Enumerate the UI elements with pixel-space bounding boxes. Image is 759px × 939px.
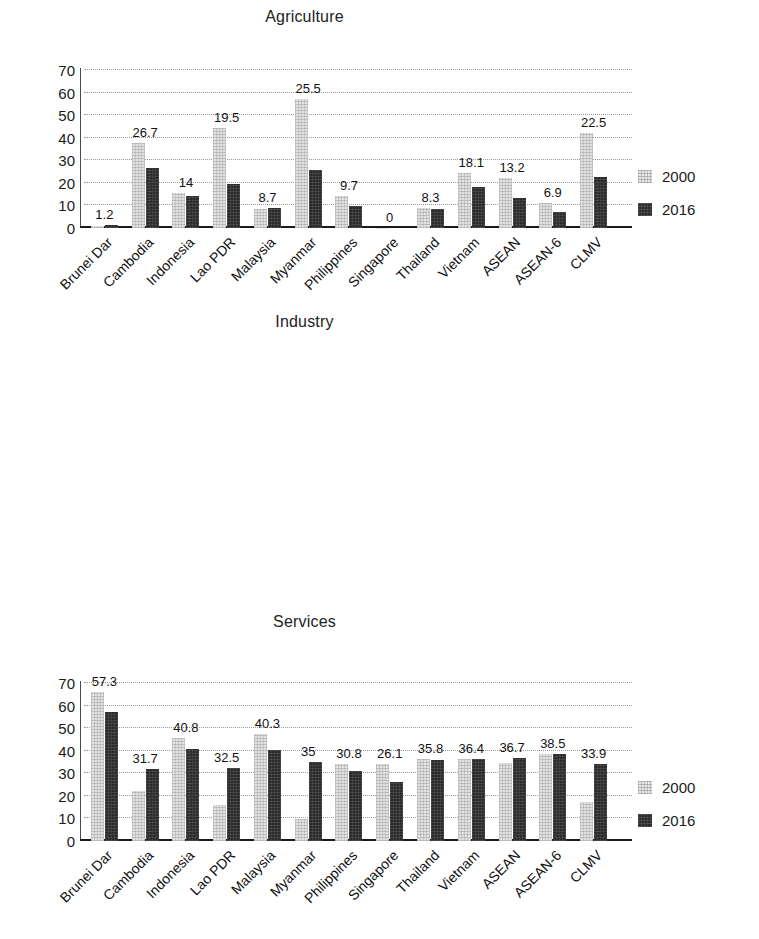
bar-2000 [335,196,348,228]
bar-2000 [172,193,185,228]
chart-panel-services: Services 0102030405060708041.341.645.348… [0,605,759,905]
y-axis-tick-label: 40 [58,129,75,146]
legend-agriculture: 2000 2016 [638,168,748,234]
figure-root: Agriculture 0102030405060701.226.71419.5… [0,0,759,939]
bar-value-label: 14 [179,175,193,190]
bar-group: 1.2 [84,70,125,228]
legend-label-2016: 2016 [662,201,695,218]
y-axis-tick-label: 60 [58,84,75,101]
bar-value-label: 0 [386,210,393,225]
bar-2016 [146,168,159,228]
y-axis-tick-label: 0 [67,220,75,237]
bar-group: 25.5 [288,70,329,228]
bar-2000 [417,208,430,228]
bar-group: 19.5 [206,70,247,228]
bar-group: 22.5 [573,70,614,228]
legend-swatch-2000-icon [638,170,652,183]
bar-2016 [349,206,362,228]
bar-2016 [309,170,322,228]
y-axis-tick-label: 30 [58,152,75,169]
bar-value-label: 8.7 [258,190,276,205]
bar-group: 0 [369,70,410,228]
chart-panel-agriculture: Agriculture 0102030405060701.226.71419.5… [0,0,759,305]
legend-label-2000: 2000 [662,168,695,185]
y-axis-tick-label: 70 [58,62,75,79]
x-label-row: Brunei DarCambodiaIndonesiaLao PDRMalays… [84,230,614,300]
chart-title-industry: Industry [0,313,759,331]
y-axis-tick-label: 20 [58,174,75,191]
bar-value-label: 25.5 [296,81,321,96]
bar-2016 [186,196,199,228]
legend-item-2016: 2016 [638,201,748,218]
bar-value-label: 8.3 [421,190,439,205]
bar-2016 [268,208,281,228]
bar-group: 6.9 [532,70,573,228]
bar-2000 [91,226,104,228]
bar-group: 8.3 [410,70,451,228]
bar-2000 [539,203,552,229]
bar-group: 26.7 [125,70,166,228]
bar-group: 14 [166,70,207,228]
bar-2000 [254,209,267,228]
y-axis-tick-label: 10 [58,197,75,214]
bar-value-label: 19.5 [214,110,239,125]
x-axis-labels-agriculture: Brunei DarCambodiaIndonesiaLao PDRMalays… [84,230,614,300]
bar-2000 [458,173,471,228]
plot-area-agriculture: 0102030405060701.226.71419.58.725.59.708… [84,70,614,228]
bar-2016 [472,187,485,228]
bar-2000 [499,178,512,228]
bar-2016 [105,225,118,228]
legend-swatch-2016-icon [638,203,652,216]
legend-item-2000: 2000 [638,168,748,185]
bar-group: 13.2 [492,70,533,228]
bar-group: 18.1 [451,70,492,228]
chart-title-services: Services [0,613,759,631]
bar-2016 [553,212,566,228]
bar-group: 8.7 [247,70,288,228]
bar-2016 [513,198,526,228]
y-axis-tick-label: 50 [58,107,75,124]
bar-group: 9.7 [329,70,370,228]
bar-2000 [213,128,226,228]
y-axis-line [80,68,81,228]
bar-value-label: 13.2 [499,160,524,175]
bar-2016 [227,184,240,228]
x-label-cell: CLMV [573,230,614,300]
bar-2016 [431,209,444,228]
bar-value-label: 6.9 [544,185,562,200]
bar-2000 [580,133,593,228]
x-label-cell: ASEAN-6 [532,230,573,300]
bar-series-container: 1.226.71419.58.725.59.708.318.113.26.922… [84,70,614,228]
bar-value-label: 1.2 [95,207,113,222]
bar-2016 [594,177,607,228]
bar-2000 [132,143,145,228]
chart-title-agriculture: Agriculture [0,8,759,26]
bar-value-label: 18.1 [459,155,484,170]
bar-value-label: 9.7 [340,178,358,193]
bar-2000 [295,99,308,228]
bar-value-label: 22.5 [581,115,606,130]
bar-value-label: 26.7 [132,125,157,140]
chart-panel-industry: Industry 01020304050607057.331.740.832.5… [0,305,759,605]
